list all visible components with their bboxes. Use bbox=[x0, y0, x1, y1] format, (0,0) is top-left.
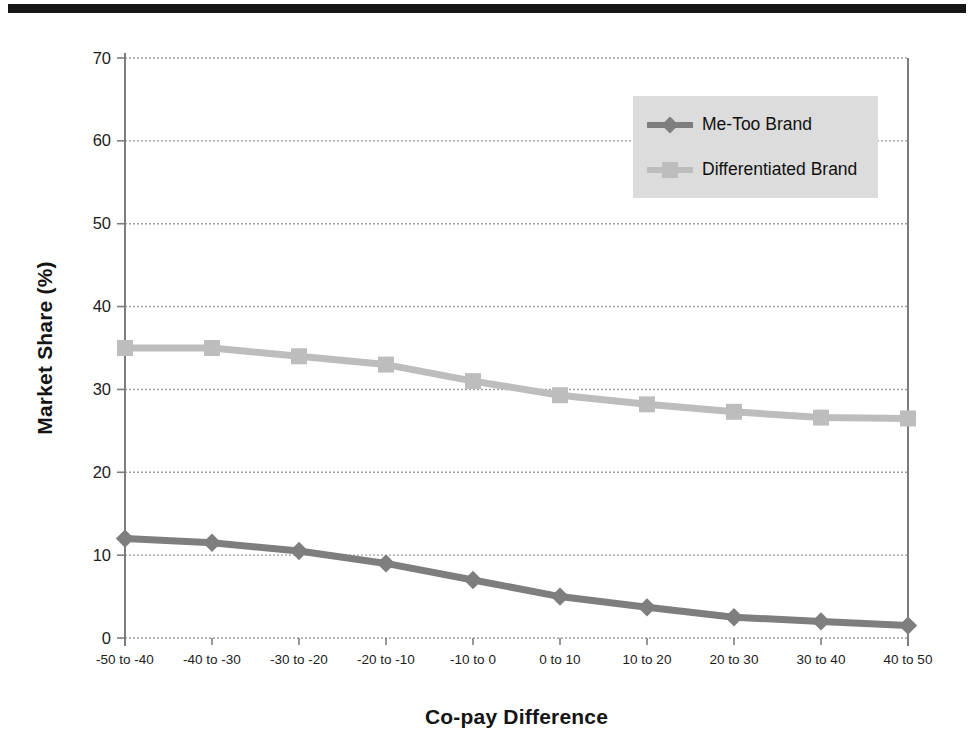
svg-text:70: 70 bbox=[93, 49, 111, 67]
svg-text:20 to 30: 20 to 30 bbox=[710, 652, 759, 667]
legend: Me-Too Brand Differentiated Brand bbox=[633, 96, 878, 198]
svg-text:40 to 50: 40 to 50 bbox=[884, 652, 933, 667]
svg-text:-10 to 0: -10 to 0 bbox=[450, 652, 496, 667]
legend-label-differentiated: Differentiated Brand bbox=[702, 159, 857, 180]
series-me-too-brand bbox=[116, 529, 917, 634]
svg-text:0 to 10: 0 to 10 bbox=[539, 652, 580, 667]
svg-text:-20 to -10: -20 to -10 bbox=[357, 652, 415, 667]
svg-text:-30 to -20: -30 to -20 bbox=[270, 652, 328, 667]
svg-text:0: 0 bbox=[102, 629, 111, 647]
legend-item-me-too: Me-Too Brand bbox=[647, 114, 878, 135]
y-axis-title: Market Share (%) bbox=[33, 261, 57, 435]
legend-item-differentiated: Differentiated Brand bbox=[647, 159, 878, 180]
x-tick-labels: -50 to -40-40 to -30-30 to -20-20 to -10… bbox=[96, 652, 932, 667]
svg-text:10: 10 bbox=[93, 546, 111, 564]
svg-text:10 to 20: 10 to 20 bbox=[623, 652, 672, 667]
svg-text:20: 20 bbox=[93, 463, 111, 481]
svg-text:-40 to -30: -40 to -30 bbox=[183, 652, 241, 667]
svg-text:30: 30 bbox=[93, 380, 111, 398]
svg-text:50: 50 bbox=[93, 214, 111, 232]
svg-text:30 to 40: 30 to 40 bbox=[797, 652, 846, 667]
figure: 010203040506070-50 to -40-40 to -30-30 t… bbox=[0, 0, 975, 744]
differentiated-legend-marker-icon bbox=[647, 160, 693, 180]
x-axis-title: Co-pay Difference bbox=[125, 705, 908, 729]
legend-label-me-too: Me-Too Brand bbox=[702, 114, 812, 135]
y-tick-labels: 010203040506070 bbox=[93, 49, 111, 647]
svg-text:40: 40 bbox=[93, 297, 111, 315]
svg-text:-50 to -40: -50 to -40 bbox=[96, 652, 154, 667]
me-too-legend-marker-icon bbox=[647, 115, 693, 135]
series-differentiated-brand bbox=[117, 340, 916, 426]
svg-text:60: 60 bbox=[93, 131, 111, 149]
x-axis bbox=[125, 638, 908, 645]
